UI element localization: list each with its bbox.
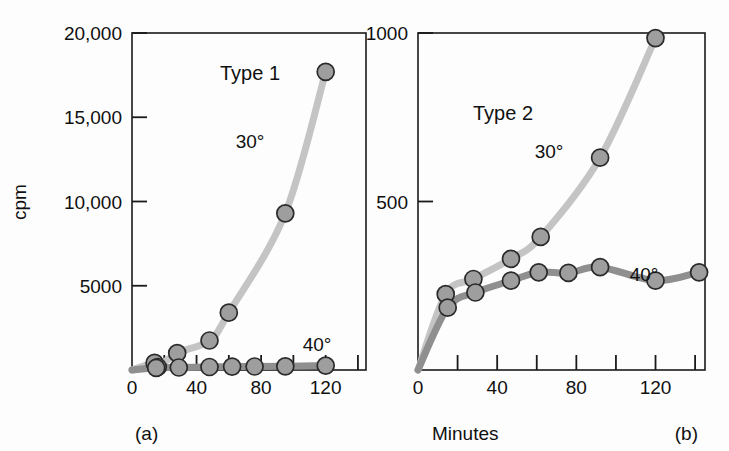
panel-a-series — [132, 63, 334, 376]
data-point-marker — [592, 149, 609, 166]
data-point-marker — [647, 30, 664, 47]
panel-a-label-40deg: 40° — [303, 334, 332, 355]
data-point-marker — [246, 358, 263, 375]
y-tick-label: 15,000 — [64, 107, 122, 128]
chart-svg: 500010,00015,00020,000 04080120 Type 1 3… — [0, 0, 729, 451]
y-tick-label: 5000 — [80, 276, 122, 297]
series-line — [132, 72, 326, 370]
data-point-marker — [201, 332, 218, 349]
panel-b-label-30deg: 30° — [535, 141, 564, 162]
data-point-marker — [317, 63, 334, 80]
y-tick-label: 500 — [376, 192, 408, 213]
data-point-marker — [503, 250, 520, 267]
x-tick-label: 0 — [127, 377, 138, 398]
x-tick-label: 80 — [251, 377, 272, 398]
panel-b-y-tick-labels: 5001000 — [366, 23, 408, 213]
panel-a-title: Type 1 — [220, 62, 280, 84]
panel-a-label-30deg: 30° — [236, 131, 265, 152]
series-line — [418, 38, 656, 370]
x-tick-label: 40 — [186, 377, 207, 398]
data-point-marker — [277, 205, 294, 222]
y-tick-label: 1000 — [366, 23, 408, 44]
data-point-marker — [467, 284, 484, 301]
data-point-marker — [224, 358, 241, 375]
y-tick-label: 20,000 — [64, 23, 122, 44]
data-point-marker — [691, 264, 708, 281]
panel-a-letter: (a) — [135, 423, 158, 444]
panel-b-label-40deg: 40° — [630, 264, 659, 285]
panel-b-y-ticks — [418, 33, 433, 202]
panel-a-y-ticks — [132, 33, 147, 286]
x-tick-label: 0 — [413, 377, 424, 398]
panel-b-series — [418, 30, 708, 370]
y-tick-label: 10,000 — [64, 192, 122, 213]
data-point-marker — [220, 304, 237, 321]
data-point-marker — [560, 264, 577, 281]
shared-xlabel: Minutes — [432, 423, 499, 444]
data-point-marker — [277, 358, 294, 375]
data-point-marker — [592, 259, 609, 276]
panel-b-title: Type 2 — [473, 102, 533, 124]
data-point-marker — [530, 264, 547, 281]
data-point-marker — [148, 359, 165, 376]
panel-b: 5001000 04080120 Type 2 30° 40° Minutes … — [366, 23, 708, 444]
data-point-marker — [532, 228, 549, 245]
data-point-marker — [201, 359, 218, 376]
panel-a-y-tick-labels: 500010,00015,00020,000 — [64, 23, 122, 297]
data-point-marker — [439, 299, 456, 316]
panel-a: 500010,00015,00020,000 04080120 Type 1 3… — [9, 23, 366, 444]
data-point-marker — [317, 357, 334, 374]
data-point-marker — [170, 359, 187, 376]
panel-b-x-tick-labels: 04080120 — [413, 377, 672, 398]
panel-a-ylabel: cpm — [9, 184, 30, 220]
panel-b-x-ticks — [458, 355, 696, 370]
panel-a-x-tick-labels: 04080120 — [127, 377, 342, 398]
x-tick-label: 120 — [640, 377, 672, 398]
x-tick-label: 80 — [566, 377, 587, 398]
x-tick-label: 40 — [487, 377, 508, 398]
figure-container: 500010,00015,00020,000 04080120 Type 1 3… — [0, 0, 729, 451]
x-tick-label: 120 — [310, 377, 342, 398]
panel-b-frame — [418, 33, 705, 370]
data-point-marker — [503, 272, 520, 289]
panel-b-letter: (b) — [675, 423, 698, 444]
